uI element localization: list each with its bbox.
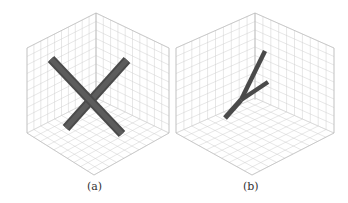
panel-b-axes [176, 13, 334, 175]
caption-a: (a) [87, 180, 102, 193]
figure-canvas [0, 0, 348, 203]
caption-b: (b) [243, 180, 259, 193]
